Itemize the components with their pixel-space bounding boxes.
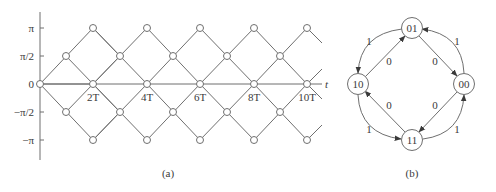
caption-a: (a) <box>162 167 175 180</box>
y-tick-label-neg-pi-half: −π/2 <box>14 106 34 118</box>
edge-label-01-10: 1 <box>366 35 372 47</box>
state-label-00: 00 <box>459 78 471 90</box>
caption-b: (b) <box>406 167 419 180</box>
edge-10-to-11 <box>358 95 401 139</box>
state-node-11: 11 <box>402 130 423 151</box>
x-tick-label-10t: 10T <box>298 91 316 103</box>
state-label-11: 11 <box>407 134 418 146</box>
edge-label-00-01: 1 <box>454 35 460 47</box>
y-tick-label-pi-half: π/2 <box>20 50 34 62</box>
y-tick-label-zero: 0 <box>29 78 35 90</box>
edge-label-01-00: 0 <box>432 55 438 67</box>
x-tick-label-2t: 2T <box>87 91 100 103</box>
state-label-01: 01 <box>407 22 418 34</box>
phase-trellis-panel: π π/2 0 −π/2 −π <box>14 12 329 180</box>
edge-01-to-10 <box>358 29 402 73</box>
state-node-00: 00 <box>454 74 475 95</box>
y-tick-label-pi: π <box>28 22 34 34</box>
x-tick-label-4t: 4T <box>141 91 154 103</box>
y-tick-label-neg-pi: −π <box>22 134 34 146</box>
figure: π π/2 0 −π/2 −π <box>0 0 496 192</box>
edge-label-00-11: 0 <box>432 99 438 111</box>
x-axis-label: t <box>325 78 329 90</box>
edge-label-10-11: 1 <box>366 123 372 135</box>
x-tick-label-8t: 8T <box>248 91 261 103</box>
edge-label-11-00: 1 <box>454 123 460 135</box>
edge-label-11-10: 0 <box>386 99 392 111</box>
state-label-10: 10 <box>353 78 365 90</box>
edge-00-to-11 <box>419 92 457 132</box>
state-node-01: 01 <box>402 18 423 39</box>
edge-label-10-01: 0 <box>386 55 392 67</box>
state-diagram-panel: 0 0 0 0 1 1 1 1 01 00 11 10 (b) <box>348 18 475 181</box>
state-node-10: 10 <box>348 74 369 95</box>
x-tick-label-6t: 6T <box>194 91 207 103</box>
